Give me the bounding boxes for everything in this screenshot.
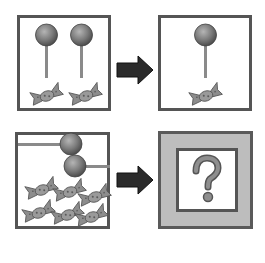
question-mark-icon [179, 151, 235, 209]
panel-row1-left [17, 15, 111, 111]
answer-panel: ? [158, 131, 253, 229]
lollipops-and-candies-2-2 [20, 18, 114, 114]
lollipop-icon [36, 24, 58, 78]
lollipop-icon [64, 155, 110, 177]
candy-icon [24, 176, 59, 200]
candy-icon [21, 199, 56, 223]
lollipop-icon [71, 24, 93, 78]
lollipop-icon [18, 133, 82, 155]
candy-icon [68, 82, 103, 106]
candy-icon [188, 82, 223, 106]
right-arrow-icon [116, 165, 154, 195]
lollipops-and-candies-2-6 [18, 135, 113, 232]
panel-row2-left [15, 132, 110, 229]
right-arrow-icon [116, 55, 154, 85]
lollipop-icon [195, 24, 217, 78]
panel-row1-right [158, 15, 252, 111]
lollipop-and-candy-1-1 [161, 18, 255, 114]
candy-icon [29, 82, 64, 106]
answer-inner-box: ? [176, 148, 238, 212]
